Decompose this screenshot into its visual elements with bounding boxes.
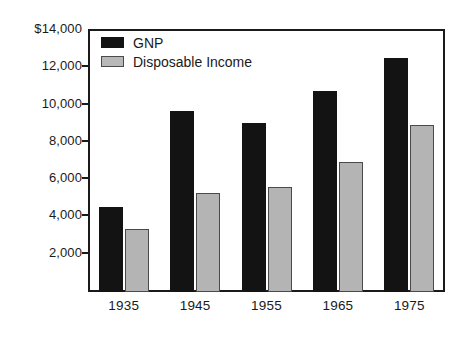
bar-disposable-income	[410, 125, 434, 292]
chart-legend: GNPDisposable Income	[101, 33, 311, 71]
bar-disposable-income	[339, 162, 363, 293]
legend-item-label: GNP	[133, 35, 163, 51]
legend-item: Disposable Income	[101, 52, 311, 71]
legend-item: GNP	[101, 33, 311, 52]
bar-gnp	[242, 123, 266, 292]
bar-gnp	[384, 58, 408, 292]
x-axis-tick-label: 1945	[165, 298, 225, 314]
bar-group	[384, 31, 434, 292]
bar-group	[313, 31, 363, 292]
black-square-swatch	[101, 37, 124, 48]
bar-chart-figure: 2,0004,0006,0008,00010,00012,000$14,000 …	[0, 0, 464, 339]
x-axis-tick-label: 1975	[379, 298, 439, 314]
x-axis-tick-label: 1935	[94, 298, 154, 314]
bar-disposable-income	[268, 187, 292, 292]
y-axis-tick-label: 12,000	[0, 59, 82, 72]
bar-gnp	[170, 111, 194, 292]
y-axis-tick-label: $14,000	[0, 22, 82, 35]
bar-disposable-income	[196, 193, 220, 292]
x-axis-tick-label: 1955	[237, 298, 297, 314]
legend-item-label: Disposable Income	[133, 54, 252, 70]
y-axis-tick-label: 4,000	[0, 208, 82, 221]
bar-gnp	[99, 207, 123, 292]
bar-disposable-income	[125, 229, 149, 292]
x-axis-tick-label: 1965	[308, 298, 368, 314]
y-axis-tick-label: 8,000	[0, 134, 82, 147]
y-axis-tick-label: 6,000	[0, 171, 82, 184]
y-axis-tick-label: 2,000	[0, 246, 82, 259]
y-axis-tick-label: 10,000	[0, 97, 82, 110]
x-axis: 19351945195519651975	[88, 298, 445, 324]
bar-gnp	[313, 91, 337, 292]
gray-square-swatch	[101, 56, 124, 67]
y-axis: 2,0004,0006,0008,00010,00012,000$14,000	[0, 0, 82, 339]
